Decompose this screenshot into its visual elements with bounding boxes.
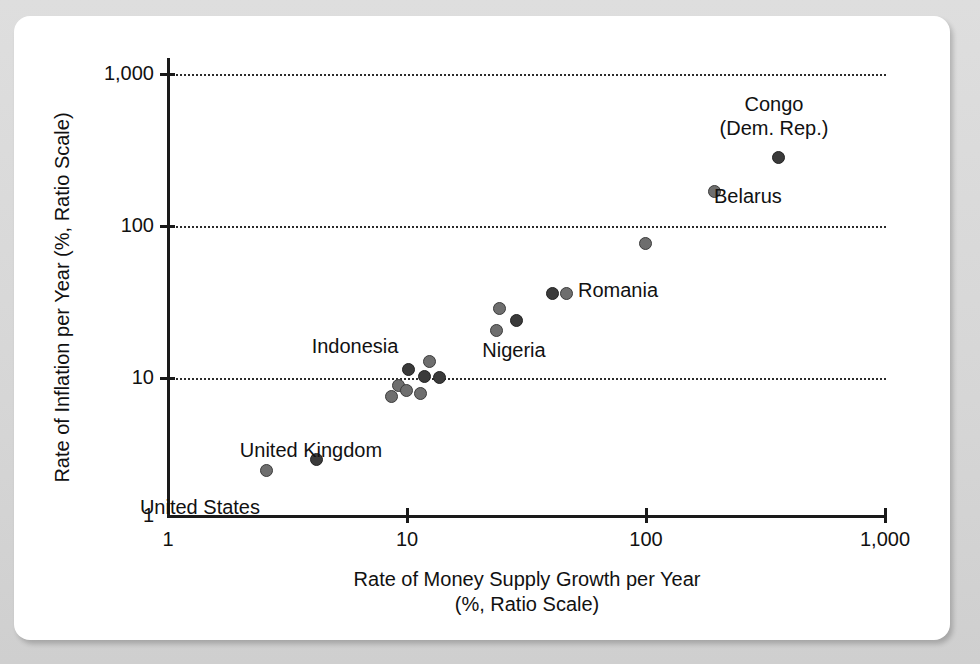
data-point-6 (414, 387, 427, 400)
x-tick-label-10: 10 (396, 528, 418, 551)
data-point-15 (639, 237, 652, 250)
y-tick-label-10: 10 (14, 366, 154, 389)
y-axis-line (167, 58, 170, 517)
data-point-13 (546, 287, 559, 300)
x-tick-100 (645, 508, 648, 523)
y-axis-title: Rate of Inflation per Year (%, Ratio Sca… (51, 83, 74, 513)
figure-card: 1,000 100 10 1 1 10 100 1,000 United Sta… (14, 16, 950, 640)
gridline-1000 (168, 74, 886, 76)
x-tick-label-100: 100 (629, 528, 662, 551)
gridline-100 (168, 226, 886, 228)
x-tick-label-1000: 1,000 (860, 528, 910, 551)
data-point-4 (400, 384, 413, 397)
congo-label-line2: (Dem. Rep.) (720, 117, 829, 139)
x-tick-1000 (884, 508, 887, 523)
x-tick-10 (406, 508, 409, 523)
y-tick-100 (160, 225, 175, 228)
data-point-indonesia (423, 355, 436, 368)
plot-area: 1,000 100 10 1 1 10 100 1,000 United Sta… (14, 16, 950, 640)
romania-label: Romania (578, 279, 658, 301)
y-tick-label-100: 100 (14, 214, 154, 237)
data-point-nigeria (490, 324, 503, 337)
indonesia-label: Indonesia (312, 335, 399, 357)
data-point-romania (560, 287, 573, 300)
x-tick-label-1: 1 (162, 528, 173, 551)
united-kingdom-label: United Kingdom (240, 439, 382, 461)
scatter-chart-figure: 1,000 100 10 1 1 10 100 1,000 United Sta… (14, 16, 950, 640)
y-tick-label-1: 1 (14, 504, 154, 527)
y-tick-1000 (160, 73, 175, 76)
x-axis-line (167, 515, 885, 518)
data-point-united-states (260, 464, 273, 477)
data-point-9 (433, 371, 446, 384)
gridline-10 (168, 378, 886, 380)
data-point-12 (510, 314, 523, 327)
x-axis-title-line2: (%, Ratio Scale) (167, 592, 887, 617)
page-background: 1,000 100 10 1 1 10 100 1,000 United Sta… (0, 0, 980, 664)
data-point-2 (385, 390, 398, 403)
data-point-11 (493, 302, 506, 315)
united-states-label: United States (140, 496, 260, 518)
y-tick-10 (160, 377, 175, 380)
congo-label-line1: Congo (745, 93, 804, 115)
data-point-8 (418, 370, 431, 383)
y-tick-label-1000: 1,000 (14, 62, 154, 85)
nigeria-label: Nigeria (482, 339, 545, 361)
x-axis-title-line1: Rate of Money Supply Growth per Year (167, 567, 887, 592)
belarus-label: Belarus (714, 185, 782, 207)
data-point-congo-dem-rep (772, 151, 785, 164)
data-point-5 (402, 363, 415, 376)
x-axis-title: Rate of Money Supply Growth per Year (%,… (167, 567, 887, 617)
